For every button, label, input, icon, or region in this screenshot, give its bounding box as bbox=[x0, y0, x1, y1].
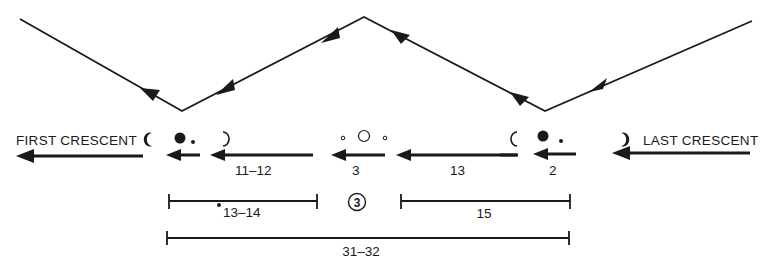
crescent-left-icon bbox=[144, 133, 152, 147]
zigzag-arrowheads bbox=[140, 27, 607, 106]
small-circle-icon bbox=[341, 136, 345, 140]
arrowhead-icon bbox=[589, 78, 607, 92]
lunar-cycle-diagram: FIRST CRESCENT LAST CRESCENT bbox=[0, 0, 774, 266]
arrowhead-icon bbox=[510, 92, 529, 106]
bracket-31-32: 31–32 bbox=[167, 231, 569, 259]
crescent-right-thin-icon bbox=[223, 132, 229, 146]
segment-label-13: 13 bbox=[450, 163, 465, 178]
bracket-label-15: 15 bbox=[476, 206, 491, 221]
bracket-15: 15 bbox=[401, 194, 570, 221]
circled-marker: 3 bbox=[349, 194, 366, 211]
crescent-left-thin-icon bbox=[511, 132, 517, 146]
last-crescent-label: LAST CRESCENT bbox=[643, 133, 758, 148]
arrow-left-icon bbox=[210, 149, 225, 161]
first-crescent-label: FIRST CRESCENT bbox=[16, 133, 137, 148]
zigzag-path bbox=[20, 17, 752, 111]
new-moon-icon bbox=[175, 133, 186, 144]
segment-label-3: 3 bbox=[352, 163, 360, 178]
new-moon-icon bbox=[538, 131, 549, 142]
segment-label-2: 2 bbox=[549, 163, 557, 178]
arrow-left-icon bbox=[166, 149, 181, 161]
bracket-label-31-32: 31–32 bbox=[342, 244, 380, 259]
horizontal-arrows bbox=[16, 146, 750, 163]
crescent-right-icon bbox=[621, 133, 629, 147]
full-moon-icon bbox=[359, 131, 370, 142]
bracket-label-13-14: 13–14 bbox=[223, 205, 261, 220]
small-dot-icon bbox=[191, 140, 195, 144]
arrow-left-icon bbox=[396, 149, 411, 161]
arrowhead-icon bbox=[391, 30, 410, 44]
small-dot-icon bbox=[559, 139, 563, 143]
moon-symbols bbox=[144, 131, 629, 147]
arrow-left-icon bbox=[533, 148, 548, 160]
bracket-13-14: 13–14 bbox=[169, 194, 317, 220]
arrowhead-icon bbox=[140, 88, 160, 101]
arrow-left-icon bbox=[331, 149, 346, 161]
circled-number: 3 bbox=[354, 196, 361, 210]
arrowhead-icon bbox=[321, 27, 340, 43]
arrowhead-icon bbox=[216, 79, 235, 95]
arrow-left-icon bbox=[16, 149, 34, 163]
segment-label-11-12: 11–12 bbox=[235, 163, 272, 178]
arrow-left-icon bbox=[612, 146, 630, 160]
small-circle-icon bbox=[383, 136, 387, 140]
small-mark-icon bbox=[217, 203, 221, 207]
